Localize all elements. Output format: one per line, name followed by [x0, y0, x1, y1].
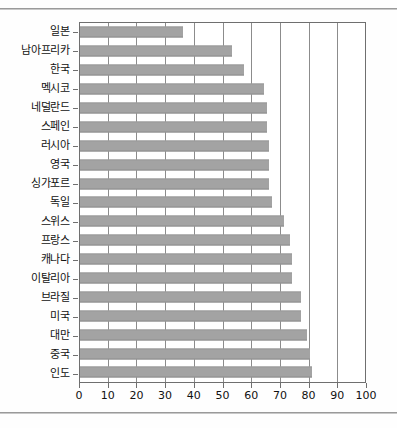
x-label-0: 0 [76, 390, 83, 401]
y-label-싱가포르: 싱가포르 [0, 174, 72, 193]
y-label-일본: 일본 [0, 22, 72, 41]
bar-독일[interactable] [80, 197, 272, 208]
y-label-스페인: 스페인 [0, 117, 72, 136]
bar-row [80, 287, 365, 306]
x-label-90: 90 [330, 390, 344, 401]
bar-스페인[interactable] [80, 121, 267, 132]
y-label-대만: 대만 [0, 326, 72, 345]
bar-일본[interactable] [80, 27, 183, 38]
bar-남아프리카[interactable] [80, 46, 232, 57]
bar-브라질[interactable] [80, 291, 301, 302]
y-tick-중국 [73, 355, 78, 356]
y-label-네덜란드: 네덜란드 [0, 98, 72, 117]
y-tick-싱가포르 [73, 184, 78, 185]
x-tick-40 [194, 383, 195, 388]
horizontal-bar-chart: 일본남아프리카한국멕시코네덜란드스페인러시아영국싱가포르독일스위스프랑스캐나다이… [0, 14, 397, 406]
bar-이탈리아[interactable] [80, 273, 292, 284]
y-tick-일본 [73, 32, 78, 33]
bar-row [80, 42, 365, 61]
y-label-미국: 미국 [0, 307, 72, 326]
bar-row [80, 117, 365, 136]
bar-row [80, 231, 365, 250]
y-tick-한국 [73, 70, 78, 71]
x-tick-30 [165, 383, 166, 388]
x-tick-50 [223, 383, 224, 388]
y-tick-미국 [73, 317, 78, 318]
y-tick-스페인 [73, 127, 78, 128]
y-label-인도: 인도 [0, 364, 72, 383]
x-tick-70 [280, 383, 281, 388]
y-tick-프랑스 [73, 241, 78, 242]
x-label-80: 80 [302, 390, 316, 401]
x-label-50: 50 [216, 390, 230, 401]
x-label-100: 100 [356, 390, 377, 401]
y-tick-인도 [73, 374, 78, 375]
bar-영국[interactable] [80, 159, 269, 170]
bar-대만[interactable] [80, 329, 307, 340]
bar-스위스[interactable] [80, 216, 284, 227]
x-tick-0 [79, 383, 80, 388]
x-label-70: 70 [273, 390, 287, 401]
x-tick-90 [337, 383, 338, 388]
bar-미국[interactable] [80, 310, 301, 321]
y-tick-대만 [73, 336, 78, 337]
x-tick-20 [136, 383, 137, 388]
bar-러시아[interactable] [80, 140, 269, 151]
bar-row [80, 193, 365, 212]
bar-캐나다[interactable] [80, 254, 292, 265]
bar-row [80, 344, 365, 363]
y-label-중국: 중국 [0, 345, 72, 364]
bottom-divider-rule [0, 412, 397, 414]
bar-싱가포르[interactable] [80, 178, 269, 189]
bar-row [80, 23, 365, 42]
top-divider-rule [0, 8, 397, 10]
x-label-40: 40 [187, 390, 201, 401]
chart-page: 일본남아프리카한국멕시코네덜란드스페인러시아영국싱가포르독일스위스프랑스캐나다이… [0, 0, 397, 428]
y-tick-멕시코 [73, 89, 78, 90]
y-tick-독일 [73, 203, 78, 204]
bar-멕시코[interactable] [80, 84, 264, 95]
x-tick-100 [366, 383, 367, 388]
bar-row [80, 212, 365, 231]
bar-row [80, 174, 365, 193]
x-label-20: 20 [129, 390, 143, 401]
y-tick-네덜란드 [73, 108, 78, 109]
bar-프랑스[interactable] [80, 235, 290, 246]
bar-한국[interactable] [80, 65, 244, 76]
bar-row [80, 136, 365, 155]
x-label-10: 10 [101, 390, 115, 401]
bar-중국[interactable] [80, 348, 310, 359]
bar-row [80, 363, 365, 382]
y-tick-러시아 [73, 146, 78, 147]
x-tick-60 [251, 383, 252, 388]
bar-row [80, 269, 365, 288]
bar-네덜란드[interactable] [80, 103, 267, 114]
y-label-남아프리카: 남아프리카 [0, 41, 72, 60]
y-label-프랑스: 프랑스 [0, 231, 72, 250]
bar-row [80, 250, 365, 269]
bar-row [80, 155, 365, 174]
x-tick-10 [108, 383, 109, 388]
bar-row [80, 80, 365, 99]
y-label-브라질: 브라질 [0, 288, 72, 307]
x-tick-80 [309, 383, 310, 388]
bar-row [80, 61, 365, 80]
y-tick-캐나다 [73, 260, 78, 261]
bar-인도[interactable] [80, 367, 312, 378]
bar-row [80, 325, 365, 344]
y-tick-남아프리카 [73, 51, 78, 52]
bar-row [80, 99, 365, 118]
y-tick-브라질 [73, 298, 78, 299]
y-tick-영국 [73, 165, 78, 166]
y-label-스위스: 스위스 [0, 212, 72, 231]
y-label-영국: 영국 [0, 155, 72, 174]
x-label-30: 30 [158, 390, 172, 401]
plot-area [79, 22, 366, 383]
x-label-60: 60 [244, 390, 258, 401]
y-axis-category-labels: 일본남아프리카한국멕시코네덜란드스페인러시아영국싱가포르독일스위스프랑스캐나다이… [0, 22, 72, 383]
y-tick-이탈리아 [73, 279, 78, 280]
y-label-캐나다: 캐나다 [0, 250, 72, 269]
y-label-이탈리아: 이탈리아 [0, 269, 72, 288]
y-label-한국: 한국 [0, 60, 72, 79]
y-tick-스위스 [73, 222, 78, 223]
